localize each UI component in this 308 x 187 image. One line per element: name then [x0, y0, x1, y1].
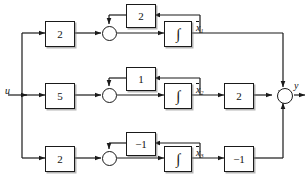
summing-junction-1[interactable]: [102, 26, 117, 41]
input-label: u: [5, 85, 10, 96]
integrator-block-3[interactable]: ∫: [164, 146, 192, 172]
output-gain-block-2[interactable]: 2: [224, 83, 254, 109]
feedback-gain-block-1[interactable]: 2: [126, 4, 156, 28]
gain-block-input-2[interactable]: 5: [45, 83, 75, 109]
block-diagram: u 2 ∫ 2 x1 5 ∫ 1 x2 2 2 ∫ −1 x3 −1 y: [0, 0, 308, 187]
summing-junction-2[interactable]: [102, 88, 117, 103]
integrator-block-1[interactable]: ∫: [164, 21, 192, 47]
state-label-x2: x2: [196, 84, 203, 95]
gain-block-input-1[interactable]: 2: [45, 21, 75, 47]
feedback-gain-block-2[interactable]: 1: [126, 67, 156, 91]
integrator-block-2[interactable]: ∫: [164, 83, 192, 109]
state-label-x1: x1: [196, 22, 203, 33]
state-label-x3: x3: [196, 147, 203, 158]
feedback-gain-block-3[interactable]: −1: [126, 132, 156, 156]
summing-junction-3[interactable]: [102, 151, 117, 166]
gain-block-input-3[interactable]: 2: [45, 146, 75, 172]
output-summing-junction[interactable]: [277, 88, 293, 104]
output-gain-block-3[interactable]: −1: [224, 146, 254, 172]
output-label-y: y: [294, 80, 298, 91]
